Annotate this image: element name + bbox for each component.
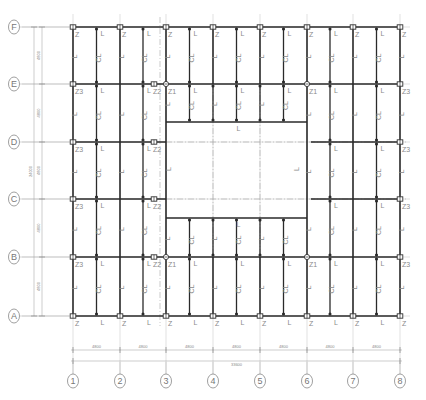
beam-label-cl: CL [235, 101, 242, 110]
column-label-z2: Z2 [153, 88, 161, 95]
column-label-z3: Z3 [75, 146, 83, 153]
beam-end [283, 258, 285, 260]
beam-end [329, 196, 331, 198]
beam-end [376, 313, 378, 315]
beam-label-cl: CL [282, 53, 289, 62]
axis-label: 5 [257, 376, 262, 386]
column-label-z: Z [355, 320, 360, 327]
beam-end [283, 313, 285, 315]
column-z [257, 25, 263, 29]
beam-label-l: L [288, 30, 292, 37]
beam-end [212, 254, 214, 256]
dimension-span-label: 4800 [36, 281, 41, 291]
beam-end [96, 313, 98, 315]
column-label-z1: Z1 [309, 88, 317, 95]
column-z [397, 25, 403, 29]
dimension-span-label: 4800 [326, 344, 336, 349]
beam-label-cl: CL [141, 53, 148, 62]
axis-label: E [11, 79, 17, 89]
beam-label-l: L [288, 87, 292, 94]
beam-label-l: L [351, 286, 358, 290]
beam-label-l: L [101, 145, 105, 152]
column-z3 [70, 197, 76, 201]
axis-label: 2 [117, 376, 122, 386]
column-z [70, 25, 76, 29]
beam-label-cl: CL [375, 111, 382, 120]
column-z1 [304, 81, 309, 86]
column-z [257, 314, 263, 318]
beam-label-l: L [71, 112, 78, 116]
column-label-z: Z [75, 320, 80, 327]
beam-end [96, 85, 98, 87]
beam-end [283, 254, 285, 256]
column-label-z: Z [215, 320, 220, 327]
beam-label-cl: CL [328, 226, 335, 235]
axis-label: 7 [350, 376, 355, 386]
axis-bubbles: 12345678FEDCBA [9, 20, 406, 388]
beam-label-l: L [334, 260, 338, 267]
dimension-span-label: 4800 [36, 108, 41, 118]
beam-label-cl: CL [375, 226, 382, 235]
beam-end [96, 81, 98, 83]
beam-label-l: L [101, 202, 105, 209]
beam-label-cl: CL [375, 168, 382, 177]
beam-end [189, 219, 191, 221]
beam-end [96, 143, 98, 145]
beam-end [329, 81, 331, 83]
column-label-z2: Z2 [153, 261, 161, 268]
beam-end [259, 85, 261, 87]
structural-plan-drawing: ZZZZZZZZZZZZZZZZZ3Z3Z3Z3Z3Z3Z3Z3Z1Z1Z1Z1… [0, 0, 426, 400]
column-label-z: Z [402, 31, 407, 38]
beam-label-l: L [71, 227, 78, 231]
beam-label-l: L [305, 55, 312, 59]
beam-label-cl: CL [188, 101, 195, 110]
beam-label-l: L [147, 30, 151, 37]
beam-label-l: L [288, 260, 292, 267]
beam-end [329, 28, 331, 30]
beam-label-l: L [71, 286, 78, 290]
column-z [163, 314, 169, 318]
column-label-z: Z [402, 320, 407, 327]
beam-end [96, 200, 98, 202]
beam-end [329, 254, 331, 256]
beam-label-l: L [147, 202, 151, 209]
beam-label-cl: CL [328, 168, 335, 177]
column-label-z: Z [309, 31, 314, 38]
beam-label-cl: CL [282, 235, 289, 244]
beam-end [96, 254, 98, 256]
beam-label-l: L [237, 221, 241, 228]
axis-label: B [11, 252, 17, 262]
beam-label-cl: CL [141, 168, 148, 177]
beam-label-l: L [241, 87, 245, 94]
beam-label-cl: CL [95, 226, 102, 235]
column-label-z: Z [355, 31, 360, 38]
dimension-span-label: 4800 [279, 344, 289, 349]
column-label-z: Z [215, 31, 220, 38]
column-z2 [151, 255, 157, 259]
column-z [117, 25, 123, 29]
beam-label-l: L [381, 145, 385, 152]
beam-end [376, 200, 378, 202]
column-z2 [151, 197, 157, 201]
beam-end [236, 28, 238, 30]
dimension-span-label: 4800 [92, 344, 102, 349]
beam-label-l: L [351, 55, 358, 59]
beam-end [212, 219, 214, 221]
beam-label-l: L [258, 286, 265, 290]
axis-label: 8 [397, 376, 402, 386]
beam-label-l: L [334, 30, 338, 37]
beam-label-cl: CL [95, 53, 102, 62]
beam-label-l: L [164, 102, 171, 106]
beam-label-l: L [147, 260, 151, 267]
column-z [163, 25, 169, 29]
column-z3 [397, 197, 403, 201]
beam-label-cl: CL [235, 235, 242, 244]
beam-end [376, 81, 378, 83]
column-label-z3: Z3 [402, 88, 410, 95]
column-z3 [70, 82, 76, 86]
column-z [117, 314, 123, 318]
column-label-z3: Z3 [75, 88, 83, 95]
column-label-z1: Z1 [309, 261, 317, 268]
beam-end [283, 219, 285, 221]
beam-end [142, 254, 144, 256]
